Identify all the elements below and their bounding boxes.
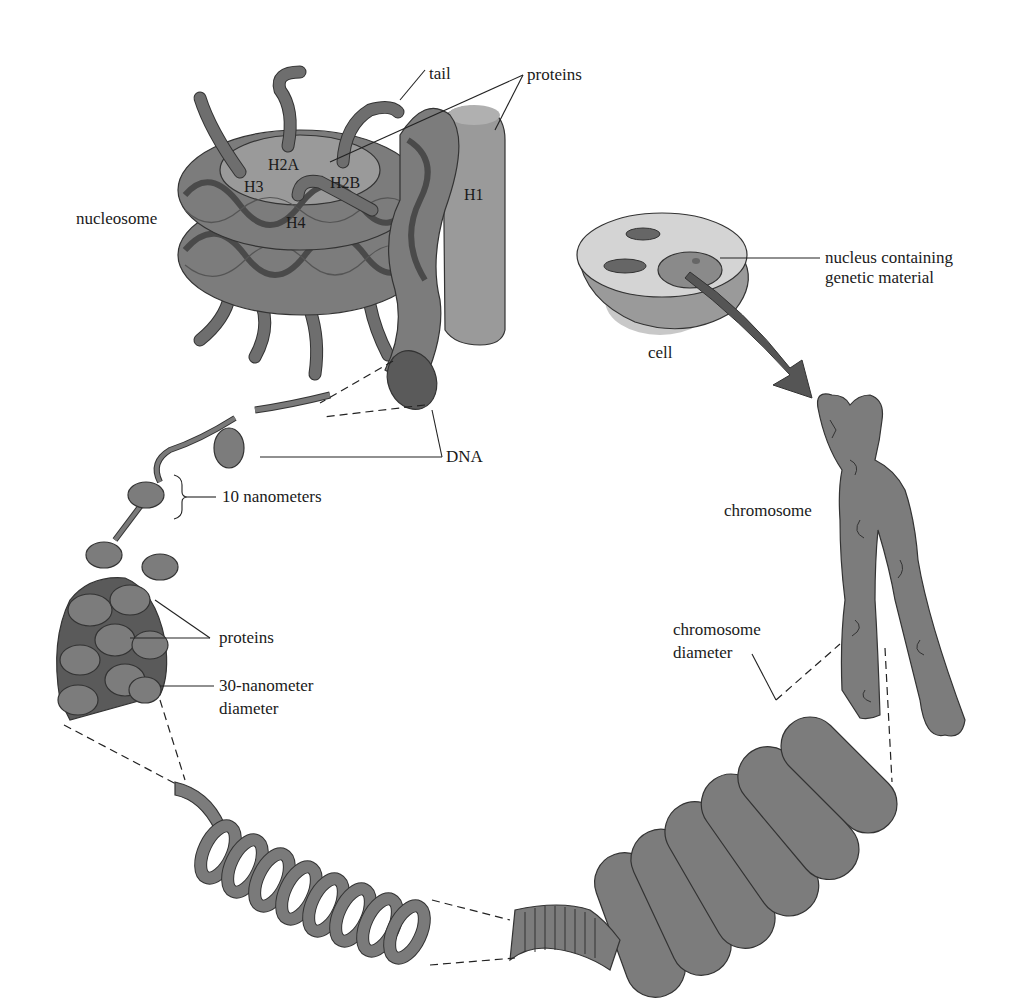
chromosome-illustration	[818, 394, 965, 736]
nucleus-label-line1: nucleus containing	[825, 248, 953, 267]
chromosome-label: chromosome	[724, 501, 812, 520]
dna-packaging-diagram: H2A H3 H2B H4 H1 tail proteins nucleosom…	[0, 0, 1022, 1005]
ten-nanometers-label: 10 nanometers	[222, 487, 322, 506]
nucleus	[658, 252, 722, 288]
histone-h2a-label: H2A	[268, 156, 300, 173]
nucleosome-illustration: H2A H3 H2B H4 H1	[178, 72, 505, 416]
dna-label: DNA	[446, 447, 484, 466]
thirty-nm-label-line2: diameter	[219, 699, 279, 718]
histone-h2b-label: H2B	[330, 174, 360, 191]
proteins-top-label: proteins	[527, 65, 582, 84]
cell-illustration	[577, 213, 812, 398]
cell-label: cell	[648, 343, 673, 362]
proteins-mid-label: proteins	[219, 628, 274, 647]
nucleosome-label: nucleosome	[76, 209, 157, 228]
thirty-nm-fiber	[57, 578, 168, 720]
nucleus-label-line2: genetic material	[825, 268, 934, 287]
thirty-nm-label-line1: 30-nanometer	[219, 676, 314, 695]
mitochondrion	[626, 228, 660, 240]
histone-h3-label: H3	[244, 178, 264, 195]
chromosome-diameter-label-line1: chromosome	[673, 620, 761, 639]
helical-coil	[175, 782, 432, 963]
mitochondrion	[604, 259, 646, 273]
histone-h1-label: H1	[464, 186, 484, 203]
zoom-arrow-icon	[685, 272, 812, 398]
compact-coil	[510, 905, 620, 970]
tail-label: tail	[429, 64, 451, 83]
looped-domain-illustration	[586, 705, 909, 1005]
histone-h4-label: H4	[286, 214, 306, 231]
chromosome-diameter-label-line2: diameter	[673, 643, 733, 662]
